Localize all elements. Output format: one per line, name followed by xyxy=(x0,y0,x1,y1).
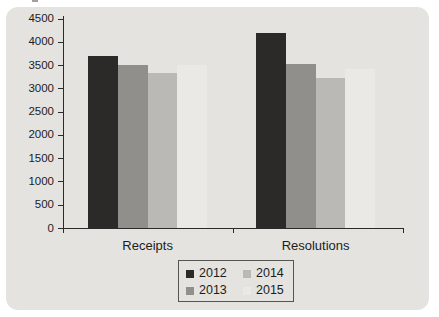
bar-receipts-2014 xyxy=(148,73,178,228)
y-tick-label: 2000 xyxy=(10,129,54,140)
y-tick xyxy=(58,181,63,182)
y-axis xyxy=(63,16,64,229)
legend-item-2015: 2015 xyxy=(243,284,293,297)
x-tick xyxy=(403,228,404,233)
legend-swatch-2012 xyxy=(186,270,194,278)
legend-item-2012: 2012 xyxy=(186,267,243,280)
y-tick-label: 4500 xyxy=(10,13,54,24)
bar-resolutions-2012 xyxy=(256,33,286,228)
y-tick-label: 500 xyxy=(10,199,54,210)
y-tick-label: 2500 xyxy=(10,106,54,117)
legend-swatch-2014 xyxy=(243,270,251,278)
bar-receipts-2012 xyxy=(88,56,118,228)
legend-item-2013: 2013 xyxy=(186,284,243,297)
category-label: Receipts xyxy=(122,238,173,253)
legend-label-2012: 2012 xyxy=(199,267,227,280)
legend: 2012201320142015 xyxy=(178,260,294,302)
y-tick xyxy=(58,158,63,159)
legend-label-2014: 2014 xyxy=(256,267,284,280)
legend-swatch-2013 xyxy=(186,287,194,295)
y-tick xyxy=(58,205,63,206)
legend-swatch-2015 xyxy=(243,287,251,295)
legend-label-2015: 2015 xyxy=(256,284,284,297)
crop-artifact-mark xyxy=(32,0,38,2)
bar-resolutions-2014 xyxy=(316,78,346,228)
y-tick xyxy=(58,19,63,20)
y-tick xyxy=(58,42,63,43)
bar-resolutions-2015 xyxy=(345,69,375,228)
category-label: Resolutions xyxy=(282,238,350,253)
y-tick xyxy=(58,135,63,136)
y-tick-label: 3500 xyxy=(10,60,54,71)
x-tick xyxy=(233,228,234,233)
y-tick-label: 0 xyxy=(10,223,54,234)
legend-label-2013: 2013 xyxy=(199,284,227,297)
y-tick xyxy=(58,112,63,113)
y-tick-label: 1500 xyxy=(10,153,54,164)
y-tick xyxy=(58,65,63,66)
bar-receipts-2013 xyxy=(118,65,148,228)
legend-item-2014: 2014 xyxy=(243,267,293,280)
x-tick xyxy=(63,228,64,233)
chart-figure: 2012201320142015 05001000150020002500300… xyxy=(0,0,439,317)
bar-receipts-2015 xyxy=(177,65,207,228)
y-tick-label: 4000 xyxy=(10,36,54,47)
y-tick-label: 3000 xyxy=(10,83,54,94)
y-tick xyxy=(58,88,63,89)
y-tick-label: 1000 xyxy=(10,176,54,187)
bar-resolutions-2013 xyxy=(286,64,316,228)
